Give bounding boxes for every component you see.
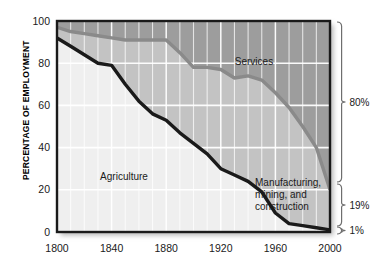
x-tick-label-1800: 1800	[45, 242, 69, 254]
y-tick-label-0: 0	[44, 226, 50, 238]
x-tick-label-1920: 1920	[209, 242, 233, 254]
services-bracket-label: 80%	[350, 97, 370, 108]
x-tick-label-1840: 1840	[100, 242, 124, 254]
chart-svg: 020406080100 180018401880192019602000 PE…	[0, 0, 382, 272]
y-tick-label-60: 60	[38, 99, 50, 111]
services-label: Services	[235, 56, 273, 67]
y-axis-title: PERCENTAGE OF EMPLOYMENT	[21, 40, 31, 180]
manufacturing-label-line-3: construction	[255, 201, 309, 212]
manufacturing-label-line-2: mining, and	[255, 189, 307, 200]
x-tick-label-1880: 1880	[155, 242, 179, 254]
manufacturing-bracket-label: 19%	[350, 200, 370, 211]
y-tick-label-20: 20	[38, 183, 50, 195]
y-tick-label-100: 100	[32, 15, 50, 27]
x-tick-label-2000: 2000	[318, 242, 342, 254]
y-tick-label-80: 80	[38, 57, 50, 69]
employment-area-chart: 020406080100 180018401880192019602000 PE…	[0, 0, 382, 272]
agriculture-label: Agriculture	[100, 171, 148, 182]
y-tick-label-40: 40	[38, 141, 50, 153]
agriculture-bracket-label: 1%	[350, 225, 365, 236]
x-tick-label-1960: 1960	[264, 242, 288, 254]
manufacturing-label-line-1: Manufacturing,	[255, 177, 321, 188]
